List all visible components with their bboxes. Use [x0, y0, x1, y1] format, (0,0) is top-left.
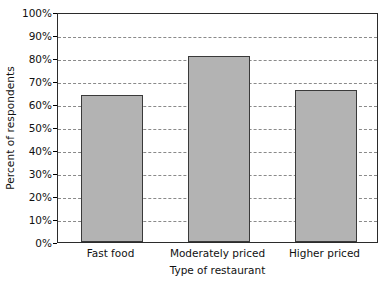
y-tick-mark — [53, 243, 57, 244]
x-tick-label: Fast food — [57, 247, 164, 260]
bar — [188, 56, 250, 242]
x-axis-ticks: Fast foodModerately pricedHigher priced — [57, 247, 378, 261]
y-tick-mark — [53, 151, 57, 152]
y-tick-mark — [53, 197, 57, 198]
y-tick-mark — [53, 13, 57, 14]
y-tick-mark — [53, 82, 57, 83]
y-tick-label: 80% — [16, 54, 52, 64]
y-tick-label: 60% — [16, 100, 52, 110]
y-tick-mark — [53, 59, 57, 60]
y-tick-mark — [53, 174, 57, 175]
y-tick-label: 50% — [16, 123, 52, 133]
y-tick-label: 0% — [16, 238, 52, 248]
y-tick-label: 100% — [16, 8, 52, 18]
plot-area — [57, 13, 378, 243]
y-tick-mark — [53, 220, 57, 221]
bar — [81, 95, 143, 242]
y-tick-label: 20% — [16, 192, 52, 202]
y-tick-label: 30% — [16, 169, 52, 179]
y-tick-mark — [53, 36, 57, 37]
y-tick-label: 70% — [16, 77, 52, 87]
x-tick-label: Moderately priced — [164, 247, 271, 260]
x-axis-title: Type of restaurant — [57, 264, 378, 277]
y-tick-label: 40% — [16, 146, 52, 156]
y-tick-label: 10% — [16, 215, 52, 225]
y-tick-mark — [53, 128, 57, 129]
bar-chart: Percent of respondents 0%10%20%30%40%50%… — [0, 0, 389, 282]
y-tick-mark — [53, 105, 57, 106]
y-axis-ticks: 0%10%20%30%40%50%60%70%80%90%100% — [14, 0, 52, 282]
x-tick-label: Higher priced — [271, 247, 378, 260]
bar — [295, 90, 357, 242]
gridline — [58, 37, 377, 38]
y-tick-label: 90% — [16, 31, 52, 41]
